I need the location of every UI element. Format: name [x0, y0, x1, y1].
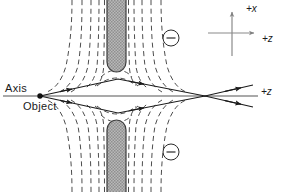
ray-upper	[40, 79, 253, 96]
equipotential-line	[134, 103, 149, 192]
equipotential-line	[71, 0, 91, 92]
coordinate-key	[208, 12, 254, 56]
equipotential-line	[129, 106, 139, 192]
equipotential-line	[95, 0, 105, 86]
equipotential-line	[142, 100, 162, 192]
equipotential-line	[58, 99, 82, 192]
plus-x-label: +x	[246, 3, 257, 14]
ray-lower	[40, 96, 253, 113]
equipotential-line	[95, 106, 105, 192]
equipotential-line	[71, 100, 91, 192]
lens-field-diagram	[0, 0, 291, 192]
equipotential-line	[134, 0, 149, 89]
upper-minus-badge	[163, 30, 179, 46]
plus-z-key-label: +z	[262, 33, 273, 44]
lower-minus-badge	[163, 144, 179, 160]
equipotential-line	[142, 0, 162, 92]
lower-electrode	[107, 120, 126, 192]
equipotential-line	[84, 0, 99, 89]
figure-canvas: Axis Object +x +z +z	[0, 0, 291, 192]
axis-label: Axis	[5, 82, 27, 94]
equipotential-line	[47, 0, 72, 92]
equipotential-line	[58, 0, 82, 93]
plus-z-ray-label: +z	[261, 86, 272, 97]
equipotential-line	[47, 100, 72, 192]
equipotential-line	[84, 103, 99, 192]
equipotential-line	[151, 0, 175, 93]
equipotential-line	[129, 0, 139, 86]
upper-electrode	[107, 0, 126, 72]
object-point	[37, 93, 42, 98]
object-label: Object	[23, 100, 57, 112]
